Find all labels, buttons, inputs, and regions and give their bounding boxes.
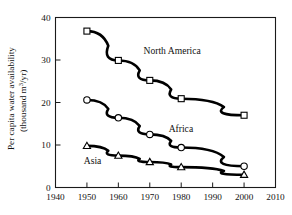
y-axis-title-line2-tail: /yr) [18,70,28,83]
data-point-2000 [241,112,247,118]
data-point-1950 [84,28,90,34]
series-label-north-america: North America [144,45,202,56]
series-label-asia: Asia [84,155,102,166]
data-point-2000 [241,163,247,169]
x-tick-label-1940: 1940 [46,192,65,202]
x-axis-ticks: 19401950196019701980199020002010 [46,183,285,203]
series-asia [83,142,247,177]
data-point-1970 [147,77,153,83]
y-tick-label-10: 10 [41,140,51,150]
water-availability-line-chart: Per capita water availability (thousand … [0,0,292,215]
x-tick-label-2000: 2000 [235,192,254,202]
x-tick-label-2010: 2010 [266,192,285,202]
series-north-america [84,28,247,118]
y-tick-label-40: 40 [41,13,51,23]
y-axis-title-line2: (thousand m3/yr) [17,70,28,132]
data-point-1980 [178,96,184,102]
y-axis-ticks: 010203040 [41,13,60,193]
y-tick-label-30: 30 [41,55,51,65]
caption-sliver [0,208,292,215]
y-axis-title: Per capita water availability (thousand … [6,47,28,150]
x-tick-label-1990: 1990 [203,192,222,202]
x-tick-label-1970: 1970 [141,192,160,202]
data-point-1950 [84,97,90,103]
figure-container: Per capita water availability (thousand … [0,0,292,215]
y-axis-title-line2-head: (thousand m [18,86,28,132]
x-tick-label-1980: 1980 [172,192,191,202]
data-point-1970 [147,131,153,137]
y-axis-title-line1: Per capita water availability [6,47,16,150]
series-label-africa: Africa [169,123,194,134]
data-point-1980 [178,144,184,150]
data-point-1960 [115,115,121,121]
y-tick-label-20: 20 [41,98,51,108]
data-point-1960 [115,57,121,63]
x-tick-label-1960: 1960 [109,192,128,202]
x-tick-label-1950: 1950 [78,192,97,202]
